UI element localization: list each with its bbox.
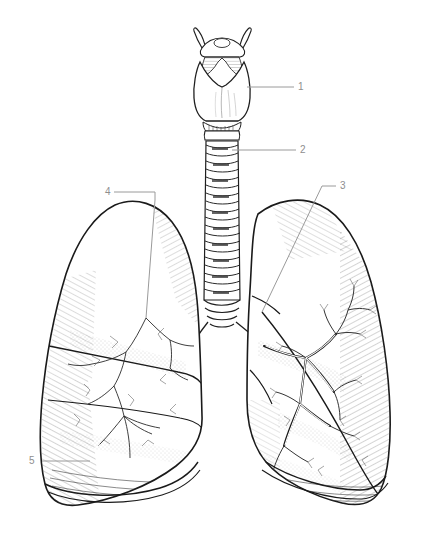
respiratory-system-illustration — [0, 0, 435, 547]
hyoid-bone — [194, 28, 205, 48]
anatomy-figure: 1 2 3 4 5 — [0, 0, 435, 547]
left-lung-group — [40, 200, 202, 505]
label-4[interactable]: 4 — [105, 187, 111, 197]
label-1[interactable]: 1 — [298, 82, 304, 92]
label-3[interactable]: 3 — [340, 181, 346, 191]
cricothyroid-gap — [203, 122, 241, 131]
carina-bifurcation — [204, 300, 240, 327]
hyoid-horn-right — [240, 28, 251, 48]
right-lung-group — [247, 198, 392, 507]
larynx-group — [194, 28, 252, 140]
label-5[interactable]: 5 — [29, 456, 35, 466]
hyoid-center-nodule — [214, 39, 230, 48]
label-2[interactable]: 2 — [300, 145, 306, 155]
right-lung-lateral-hatch — [340, 230, 392, 507]
cricoid-cartilage — [204, 131, 240, 140]
